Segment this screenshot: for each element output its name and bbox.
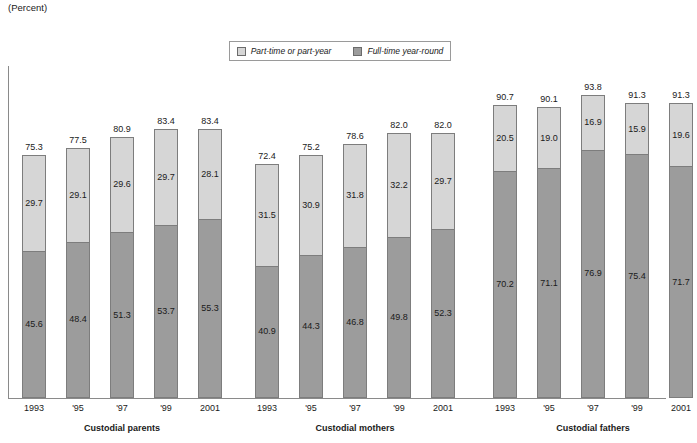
x-tick-label: 1993	[14, 403, 54, 413]
bar-segment-part-time[interactable]: 19.6	[669, 103, 693, 166]
segment-value-full-time: 71.1	[540, 279, 558, 288]
bar-segment-full-time[interactable]: 51.3	[110, 232, 134, 398]
x-tick-label: '95	[529, 403, 569, 413]
segment-value-part-time: 30.9	[302, 201, 320, 210]
x-tick-label: 1993	[247, 403, 287, 413]
bar-segment-full-time[interactable]: 45.6	[22, 251, 46, 398]
x-tick-label: 1993	[485, 403, 525, 413]
y-axis-line	[8, 66, 9, 399]
segment-value-full-time: 75.4	[628, 272, 646, 281]
stacked-bar[interactable]: 82.032.249.8	[387, 133, 411, 398]
x-tick-label: '99	[146, 403, 186, 413]
bar-segment-full-time[interactable]: 75.4	[625, 154, 649, 398]
stacked-bar[interactable]: 72.431.540.9	[255, 164, 279, 398]
stacked-bar[interactable]: 90.119.071.1	[537, 107, 561, 398]
bar-segment-full-time[interactable]: 71.7	[669, 166, 693, 398]
bar-segment-full-time[interactable]: 55.3	[198, 219, 222, 398]
bar-total-label: 82.0	[434, 120, 452, 130]
segment-value-full-time: 55.3	[201, 304, 219, 313]
segment-value-part-time: 29.6	[113, 180, 131, 189]
segment-value-full-time: 40.9	[258, 327, 276, 336]
segment-value-full-time: 70.2	[496, 280, 514, 289]
segment-value-full-time: 45.6	[25, 320, 43, 329]
x-tick-label: '99	[379, 403, 419, 413]
bar-segment-full-time[interactable]: 53.7	[154, 225, 178, 398]
segment-value-part-time: 31.8	[346, 191, 364, 200]
segment-value-part-time: 29.7	[157, 173, 175, 182]
stacked-bar[interactable]: 83.428.155.3	[198, 129, 222, 398]
stacked-bar[interactable]: 78.631.846.8	[343, 144, 367, 398]
group-title: Custodial fathers	[556, 423, 630, 433]
bar-segment-full-time[interactable]: 49.8	[387, 237, 411, 398]
segment-value-part-time: 31.5	[258, 211, 276, 220]
bar-segment-full-time[interactable]: 46.8	[343, 247, 367, 398]
bar-segment-full-time[interactable]: 76.9	[581, 150, 605, 398]
bar-segment-part-time[interactable]: 20.5	[493, 105, 517, 171]
stacked-bar[interactable]: 77.529.148.4	[66, 148, 90, 398]
stacked-bar[interactable]: 91.319.671.7	[669, 103, 693, 398]
segment-value-full-time: 51.3	[113, 311, 131, 320]
stacked-bar[interactable]: 75.230.944.3	[299, 155, 323, 398]
bar-segment-part-time[interactable]: 32.2	[387, 133, 411, 237]
bar-total-label: 83.4	[157, 116, 175, 126]
bar-segment-part-time[interactable]: 29.7	[154, 129, 178, 225]
bar-segment-part-time[interactable]: 29.7	[431, 133, 455, 229]
stacked-bar[interactable]: 93.816.976.9	[581, 95, 605, 398]
segment-value-part-time: 19.0	[540, 134, 558, 143]
bar-segment-part-time[interactable]: 29.6	[110, 137, 134, 233]
bar-total-label: 90.1	[540, 94, 558, 104]
x-tick-label: 2001	[423, 403, 463, 413]
x-tick-label: '95	[58, 403, 98, 413]
segment-value-full-time: 52.3	[434, 309, 452, 318]
bar-segment-part-time[interactable]: 15.9	[625, 103, 649, 154]
segment-value-full-time: 76.9	[584, 269, 602, 278]
segment-value-part-time: 32.2	[390, 181, 408, 190]
bar-total-label: 72.4	[258, 151, 276, 161]
x-tick-label: 2001	[190, 403, 230, 413]
bar-segment-part-time[interactable]: 19.0	[537, 107, 561, 168]
bar-total-label: 91.3	[672, 90, 690, 100]
bar-segment-part-time[interactable]: 28.1	[198, 129, 222, 220]
x-tick-label: 2001	[661, 403, 697, 413]
bar-segment-part-time[interactable]: 16.9	[581, 95, 605, 150]
bar-segment-part-time[interactable]: 31.8	[343, 144, 367, 247]
x-tick-label: '97	[102, 403, 142, 413]
stacked-bar[interactable]: 75.329.745.6	[22, 155, 46, 398]
segment-value-part-time: 20.5	[496, 134, 514, 143]
bar-segment-part-time[interactable]: 29.7	[22, 155, 46, 251]
segment-value-full-time: 44.3	[302, 322, 320, 331]
bar-segment-full-time[interactable]: 44.3	[299, 255, 323, 398]
stacked-bar[interactable]: 80.929.651.3	[110, 137, 134, 398]
x-tick-label: '97	[573, 403, 613, 413]
bar-segment-part-time[interactable]: 29.1	[66, 148, 90, 242]
segment-value-full-time: 46.8	[346, 318, 364, 327]
bar-total-label: 77.5	[69, 135, 87, 145]
x-tick-label: '95	[291, 403, 331, 413]
bar-segment-full-time[interactable]: 48.4	[66, 242, 90, 398]
segment-value-full-time: 48.4	[69, 315, 87, 324]
segment-value-full-time: 53.7	[157, 307, 175, 316]
segment-value-part-time: 15.9	[628, 125, 646, 134]
segment-value-full-time: 49.8	[390, 313, 408, 322]
group-title: Custodial parents	[84, 423, 160, 433]
bar-segment-part-time[interactable]: 31.5	[255, 164, 279, 266]
group-title: Custodial mothers	[315, 423, 394, 433]
segment-value-part-time: 29.1	[69, 191, 87, 200]
x-tick-label: '99	[617, 403, 657, 413]
bar-total-label: 78.6	[346, 131, 364, 141]
segment-value-part-time: 29.7	[434, 177, 452, 186]
bar-segment-full-time[interactable]: 52.3	[431, 229, 455, 398]
bar-segment-full-time[interactable]: 40.9	[255, 266, 279, 398]
bar-segment-full-time[interactable]: 70.2	[493, 171, 517, 398]
stacked-bar[interactable]: 83.429.753.7	[154, 129, 178, 398]
bar-total-label: 93.8	[584, 82, 602, 92]
segment-value-part-time: 29.7	[25, 199, 43, 208]
bar-segment-part-time[interactable]: 30.9	[299, 155, 323, 255]
bar-total-label: 75.2	[302, 142, 320, 152]
stacked-bar[interactable]: 82.029.752.3	[431, 133, 455, 398]
stacked-bar[interactable]: 90.720.570.2	[493, 105, 517, 398]
stacked-bar[interactable]: 91.315.975.4	[625, 103, 649, 398]
bar-total-label: 80.9	[113, 124, 131, 134]
bar-segment-full-time[interactable]: 71.1	[537, 168, 561, 398]
